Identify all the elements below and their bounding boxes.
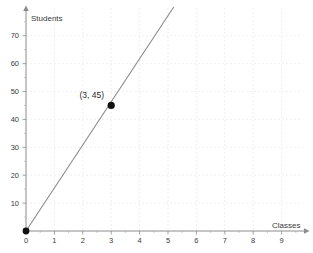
y-tick-label: 70 bbox=[11, 31, 19, 40]
data-point-label: (3, 45) bbox=[79, 90, 104, 100]
y-tick-label: 40 bbox=[11, 115, 19, 124]
x-tick-label: 6 bbox=[194, 236, 198, 245]
x-tick-label: 3 bbox=[109, 236, 113, 245]
y-tick-label: 60 bbox=[11, 59, 19, 68]
x-tick-label: 0 bbox=[24, 236, 28, 245]
x-tick-label: 7 bbox=[223, 236, 227, 245]
line-chart: 10 20 30 40 50 60 70 bbox=[0, 0, 313, 253]
data-point-origin bbox=[23, 228, 30, 235]
x-tick-label: 9 bbox=[280, 236, 284, 245]
x-axis-tick-labels: 0 1 2 3 4 5 6 7 8 9 bbox=[24, 236, 284, 245]
horizontal-gridlines bbox=[26, 36, 303, 203]
x-axis-title: Classes bbox=[272, 221, 300, 230]
data-point-highlight bbox=[108, 102, 115, 109]
y-tick-label: 20 bbox=[11, 171, 19, 180]
y-axis-tick-labels: 10 20 30 40 50 60 70 bbox=[11, 31, 19, 207]
y-tick-label: 10 bbox=[11, 199, 19, 208]
y-tick-label: 50 bbox=[11, 87, 19, 96]
x-tick-label: 8 bbox=[251, 236, 255, 245]
y-axis-major-ticks bbox=[23, 36, 27, 203]
y-tick-label: 30 bbox=[11, 143, 19, 152]
x-tick-label: 4 bbox=[138, 236, 142, 245]
y-axis-arrow bbox=[23, 6, 29, 12]
x-tick-label: 5 bbox=[166, 236, 170, 245]
x-axis-arrow bbox=[304, 228, 310, 234]
chart-container: 10 20 30 40 50 60 70 bbox=[0, 0, 313, 253]
x-tick-label: 2 bbox=[81, 236, 85, 245]
data-series-line bbox=[26, 7, 174, 231]
y-axis-title: Students bbox=[31, 14, 63, 23]
x-tick-label: 1 bbox=[52, 236, 56, 245]
